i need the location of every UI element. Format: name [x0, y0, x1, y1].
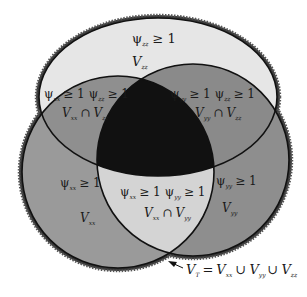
svg-text:ψyy≥ 1: ψyy≥ 1 [216, 174, 257, 190]
svg-text:ψzz≥ 1: ψzz≥ 1 [132, 31, 176, 47]
svg-text:ψxx≥ 1: ψxx≥ 1 [60, 176, 101, 191]
union-pointer-arrow [168, 261, 183, 268]
union-label: VT=Vxx∪Vyy∪Vzz [186, 262, 298, 279]
venn-diagram: ψzz≥ 1 Vzz ψxx≥ 1ψzz≥ 1 Vxx∩Vzz ψyy≥ 1ψz… [0, 0, 307, 297]
venn-svg: ψzz≥ 1 Vzz ψxx≥ 1ψzz≥ 1 Vxx∩Vzz ψyy≥ 1ψz… [0, 0, 307, 297]
